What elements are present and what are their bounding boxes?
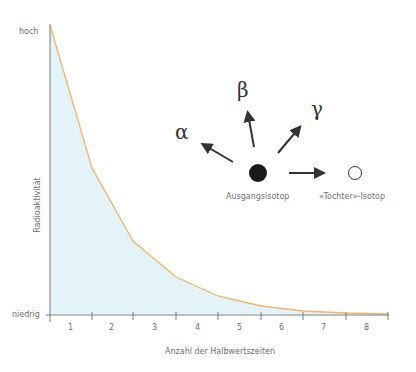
area-fill [50,25,388,314]
decay-arrows [204,114,322,173]
parent-isotope-label: Ausgangsisotop [226,192,289,201]
x-tick-3: 3 [152,323,157,332]
x-tick-6: 6 [279,323,284,332]
gamma-arrow [278,128,299,153]
y-label-high: hoch [19,27,38,36]
daughter-isotope-icon [349,167,362,180]
x-tick-1: 1 [68,323,73,332]
x-tick-5: 5 [237,323,242,332]
gamma-symbol: γ [311,97,323,121]
y-axis-title: Radioaktivität [33,177,42,233]
daughter-isotope-label: «Tochter»-Isotop [319,192,385,201]
parent-isotope-icon [249,164,267,182]
x-tick-8: 8 [364,323,369,332]
alpha-symbol: α [175,120,189,144]
x-tick-4: 4 [195,323,200,332]
beta-symbol: β [237,78,249,102]
alpha-arrow [204,145,233,162]
y-label-low: niedrig [12,310,40,319]
x-tick-2: 2 [109,323,114,332]
x-tick-7: 7 [321,323,326,332]
x-axis-title: Anzahl der Halbwertszeiten [165,347,275,356]
decay-chart [0,0,416,372]
beta-arrow [248,114,254,147]
